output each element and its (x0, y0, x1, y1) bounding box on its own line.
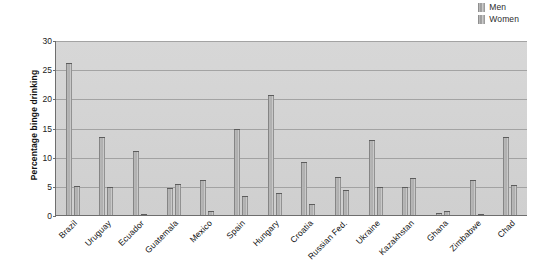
x-axis-label-cell: Brazil (55, 216, 89, 271)
legend-label-men: Men (489, 3, 506, 12)
bar-men (167, 188, 173, 216)
y-tick-label: 15 (43, 124, 52, 133)
bar-men (200, 180, 206, 216)
bar-group (224, 41, 258, 216)
bar-men (301, 162, 307, 216)
bar-women (377, 187, 383, 216)
bar-men (470, 180, 476, 216)
x-axis-label-cell: Kazakhstan (392, 216, 426, 271)
y-axis-title: Percentage binge drinking (29, 30, 39, 220)
bar-group (325, 41, 359, 216)
bar-women (511, 185, 517, 216)
chart-figure: Men Women Percentage binge drinking 0510… (0, 0, 537, 271)
bar-men (503, 137, 509, 216)
bar-group (493, 41, 527, 216)
bar-men (369, 140, 375, 216)
bar-group (460, 41, 494, 216)
legend-label-women: Women (489, 15, 519, 24)
x-axis-label: Croatia (288, 218, 315, 245)
bar-women (107, 187, 113, 216)
x-axis-label-cell: Guatemala (156, 216, 190, 271)
bar-group (157, 41, 191, 216)
bar-men (268, 95, 274, 216)
bar-women (410, 178, 416, 216)
bar-men (66, 63, 72, 216)
legend-swatch-women-icon (478, 15, 485, 24)
x-axis-labels: BrazilUruguayEcuadorGuatemalaMexicoSpain… (55, 216, 527, 271)
x-axis-label-cell: Russian Fed. (325, 216, 359, 271)
bar-women (74, 186, 80, 216)
legend-item-men: Men (478, 3, 506, 12)
bar-group (123, 41, 157, 216)
bar-group (56, 41, 90, 216)
x-axis-label: Brazil (56, 218, 79, 241)
chart-legend: Men Women (478, 3, 519, 24)
x-axis-label-cell: Zimbabwe (460, 216, 494, 271)
y-tick-label: 10 (43, 153, 52, 162)
legend-swatch-men-icon (478, 3, 485, 12)
bar-men (402, 187, 408, 216)
x-axis-label-cell: Uruguay (89, 216, 123, 271)
bar-group (291, 41, 325, 216)
x-axis-label-cell: Hungary (257, 216, 291, 271)
bar-group (191, 41, 225, 216)
y-tick-label: 25 (43, 66, 52, 75)
y-tick-label: 5 (47, 183, 52, 192)
x-axis-label: Mexico (187, 218, 214, 245)
y-tick-label: 20 (43, 95, 52, 104)
bar-women (309, 204, 315, 216)
bar-women (242, 196, 248, 216)
plot-area: 051015202530 (55, 41, 527, 216)
x-axis-label: Ghana (424, 218, 449, 243)
bar-men (99, 137, 105, 216)
bar-men (234, 129, 240, 217)
bar-women (343, 190, 349, 216)
bar-men (133, 151, 139, 216)
bar-group (426, 41, 460, 216)
bar-women (175, 184, 181, 216)
y-tick-label: 30 (43, 37, 52, 46)
bar-group (392, 41, 426, 216)
x-axis-label: Chad (496, 218, 518, 240)
x-axis-label-cell: Mexico (190, 216, 224, 271)
bar-groups (56, 41, 527, 216)
legend-item-women: Women (478, 15, 519, 24)
x-axis-label-cell: Chad (493, 216, 527, 271)
x-axis-label: Ukraine (354, 218, 382, 246)
bar-group (258, 41, 292, 216)
bar-group (359, 41, 393, 216)
bar-women (276, 193, 282, 216)
bar-men (335, 177, 341, 216)
x-axis-label: Spain (225, 218, 248, 241)
bar-group (90, 41, 124, 216)
y-tick-label: 0 (47, 212, 52, 221)
